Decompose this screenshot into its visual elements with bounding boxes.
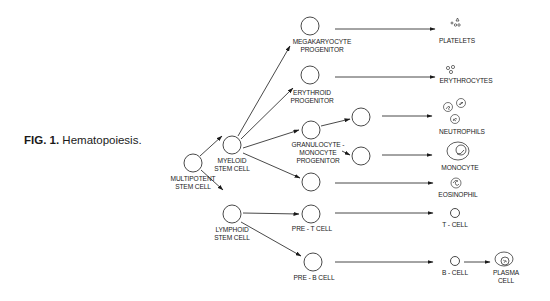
monocyte-icon	[447, 142, 469, 160]
eosinophil-icon	[451, 178, 461, 188]
eosinophil-precursor-cell	[302, 173, 320, 191]
b-cell-label: B - CELL	[440, 269, 470, 277]
t-cell-icon	[451, 209, 460, 218]
plasma-cell-label: PLASMA CELL	[491, 269, 521, 285]
neutrophils-label: NEUTROPHILS	[436, 128, 488, 136]
erythroid-cell	[301, 66, 319, 84]
multipotent-stem-cell-label: MULTIPOTENT STEM CELL	[165, 175, 221, 191]
pre-t-cell-label: PRE - T CELL	[290, 225, 334, 233]
myeloid-cell	[223, 136, 241, 154]
lymphoid-cell	[223, 205, 241, 223]
pre-b-cell-label: PRE - B CELL	[292, 274, 336, 282]
myeloid-stem-cell-label: MYELOID STEM CELL	[212, 157, 252, 173]
megakaryocyte-cell	[301, 17, 319, 35]
eosinophil-label: EOSINOPHIL	[437, 191, 479, 199]
megakaryocyte-progenitor-label: MEGAKARYOCYTE PROGENITOR	[290, 38, 354, 54]
erythrocytes-icon	[446, 65, 454, 73]
multipotent-cell	[184, 154, 202, 172]
monocyte-precursor-cell	[352, 147, 370, 165]
b-cell-icon	[451, 257, 460, 266]
neutrophils-icon	[444, 99, 466, 124]
lymphoid-stem-cell-label: LYMPHOID STEM CELL	[212, 226, 252, 242]
t-cell-label: T - CELL	[440, 221, 470, 229]
granulocyte-monocyte-cell	[302, 121, 320, 139]
granulocyte-monocyte-progenitor-label: GRANULOCYTE - MONOCYTE PROGENITOR	[290, 141, 346, 165]
neutrophil-precursor-cell	[352, 108, 370, 126]
erythroid-progenitor-label: ERYTHROID PROGENITOR	[290, 89, 334, 105]
monocyte-label: MONOCYTE	[440, 164, 480, 172]
plasma-cell-icon	[495, 252, 513, 266]
hematopoiesis-diagram	[0, 0, 550, 301]
erythrocytes-label: ERYTHROCYTES	[438, 77, 494, 85]
platelets-icon	[451, 18, 460, 26]
pre-t-cell	[302, 205, 320, 223]
pre-b-cell	[304, 253, 322, 271]
platelets-label: PLATELETS	[435, 37, 479, 45]
